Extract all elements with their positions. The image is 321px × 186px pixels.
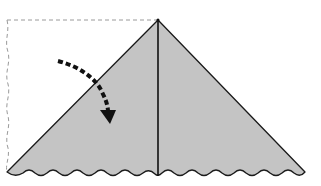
apex-point	[157, 19, 160, 22]
folding-diagram	[0, 0, 321, 186]
folded-triangle	[7, 20, 305, 176]
diagram-svg	[0, 0, 321, 186]
